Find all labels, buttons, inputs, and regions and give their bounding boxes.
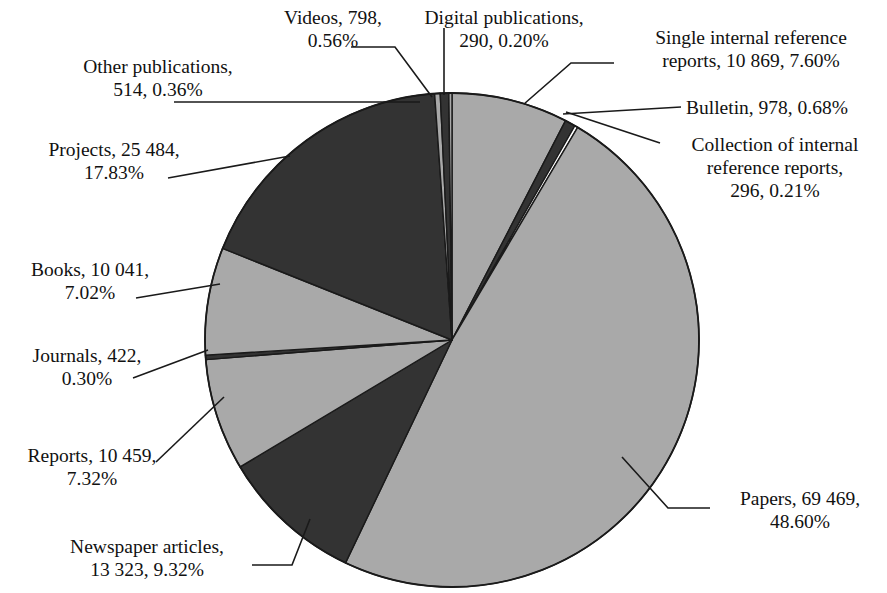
- slice-label-papers: Papers, 69 469, 48.60%: [716, 487, 884, 533]
- slice-label-videos: Videos, 798, 0.56%: [258, 6, 408, 52]
- slice-label-newspaper-articles: Newspaper articles, 13 323, 9.32%: [22, 535, 272, 581]
- slice-label-reports: Reports, 10 459, 7.32%: [6, 444, 178, 490]
- slice-label-collection-of-internal-reference-reports: Collection of internal reference reports…: [664, 133, 886, 202]
- leader-line-videos: [351, 47, 432, 97]
- slice-label-single-internal-reference-reports: Single internal reference reports, 10 86…: [620, 26, 882, 72]
- pie-chart-figure: Single internal reference reports, 10869…: [0, 0, 887, 593]
- slice-label-digital-publications: Digital publications, 290, 0.20%: [406, 6, 602, 52]
- slice-label-journals: Journals, 422, 0.30%: [6, 344, 168, 390]
- slice-label-other-publications: Other publications, 514, 0.36%: [38, 55, 278, 101]
- pie-slice-group: Single internal reference reports, 10869…: [205, 93, 699, 587]
- slice-label-bulletin: Bulletin, 978, 0.68%: [686, 96, 886, 119]
- leader-line-bulletin: [563, 107, 681, 114]
- slice-label-projects: Projects, 25 484, 17.83%: [14, 138, 214, 184]
- slice-label-books: Books, 10 041, 7.02%: [6, 258, 174, 304]
- leader-line-single-internal-reference-reports: [524, 63, 614, 104]
